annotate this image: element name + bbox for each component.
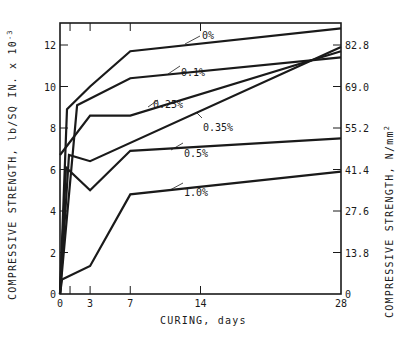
y-tick-label: 12 — [44, 40, 56, 51]
series-line-0-5pct — [60, 138, 341, 294]
x-tick-label: 14 — [194, 298, 206, 309]
y-right-tick-label: 55.2 — [345, 123, 369, 134]
series-label: 0.5% — [184, 148, 208, 159]
y-right-tick-label: 69.0 — [345, 82, 369, 93]
y-tick-label: 4 — [50, 206, 56, 217]
x-axis-label: CURING, days — [160, 315, 247, 326]
series-label: 0.35% — [203, 122, 233, 133]
label-leader-line — [197, 113, 202, 118]
series-label: 1.0% — [184, 187, 208, 198]
x-tick-label: 3 — [87, 298, 93, 309]
y-tick-label: 8 — [50, 123, 56, 134]
y-tick-label: 0 — [50, 289, 56, 300]
x-tick-label: 0 — [57, 298, 63, 309]
y-tick-label: 6 — [50, 165, 56, 176]
series-label: 0.1% — [181, 67, 205, 78]
y-right-tick-label: 13.8 — [345, 248, 369, 259]
y-right-tick-label: 82.8 — [345, 40, 369, 51]
x-tick-label: 7 — [127, 298, 133, 309]
series-labels: 0%0.1%0.25%0.35%0.5%1.0% — [148, 30, 233, 198]
series-line-0-35pct — [60, 47, 341, 294]
y-tick-label: 10 — [44, 82, 56, 93]
series-label: 0.25% — [153, 99, 183, 110]
series-label: 0% — [202, 30, 214, 41]
strength-vs-curing-chart: 0371428024681012013.827.641.455.269.082.… — [0, 0, 399, 342]
axis-ticks: 0371428024681012013.827.641.455.269.082.… — [44, 23, 369, 309]
y-right-tick-label: 27.6 — [345, 206, 369, 217]
y-right-tick-label: 41.4 — [345, 165, 369, 176]
y-tick-label: 2 — [50, 248, 56, 259]
y-axis-label-left: COMPRESSIVE STRENGTH, lb/SQ IN. x 10-3 — [6, 29, 18, 300]
y-right-tick-label: 0 — [345, 289, 351, 300]
y-axis-label-right: COMPRESSIVE STRENGTH, N/mm2 — [383, 125, 395, 318]
